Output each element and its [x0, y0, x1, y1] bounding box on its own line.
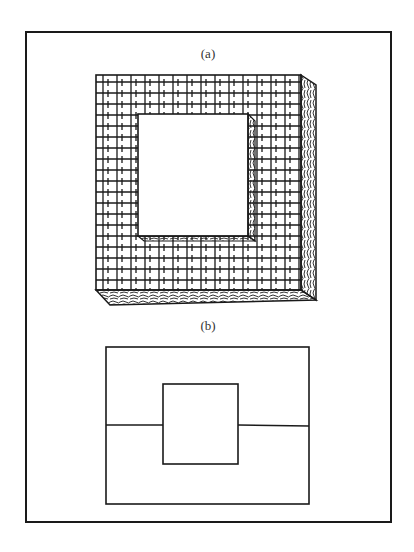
panel-b-diagram — [106, 347, 309, 504]
hole-right-wall — [248, 114, 255, 241]
figure-drawing — [0, 0, 414, 552]
block-right-face — [301, 75, 316, 300]
panel-a-block — [96, 75, 316, 305]
inner-square — [163, 384, 238, 464]
block-hole — [138, 114, 248, 236]
block-bottom-face — [96, 290, 316, 305]
hole-bottom-wall — [138, 236, 255, 241]
right-divider-line — [238, 425, 309, 426]
